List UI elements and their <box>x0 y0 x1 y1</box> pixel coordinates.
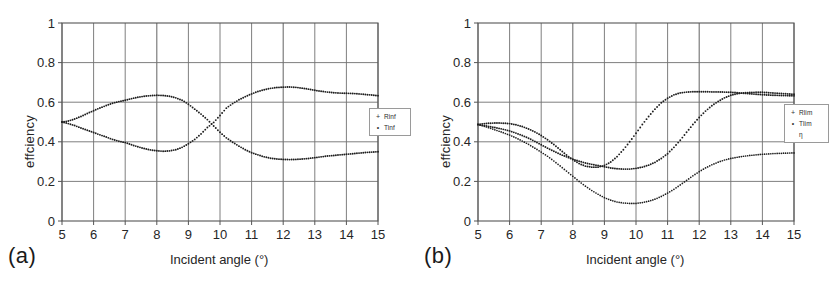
plot-b-ticks <box>474 23 794 225</box>
svg-text:0.2: 0.2 <box>37 174 55 189</box>
plot-b-legend[interactable]: +Rlim•Tlimη <box>784 104 829 143</box>
legend-label: η <box>799 129 803 140</box>
plot-b-tick-labels: 00.20.40.60.8156789101112131415 <box>453 16 801 243</box>
legend-item-Tinf[interactable]: •Tinf <box>372 122 407 133</box>
svg-text:9: 9 <box>601 227 608 242</box>
svg-text:0.6: 0.6 <box>37 95 55 110</box>
legend-marker-icon: • <box>372 122 384 133</box>
plot-a-panel-tag: (a) <box>8 243 36 269</box>
svg-text:1: 1 <box>464 16 471 31</box>
svg-text:0: 0 <box>464 214 471 229</box>
svg-text:15: 15 <box>787 227 801 242</box>
svg-text:12: 12 <box>276 227 290 242</box>
plot-a-legend[interactable]: +Rinf•Tinf <box>369 108 411 136</box>
svg-text:8: 8 <box>569 227 576 242</box>
plot-a-svg: 00.20.40.60.8156789101112131415 <box>0 0 416 286</box>
legend-label: Rlim <box>799 107 812 118</box>
svg-text:6: 6 <box>506 227 513 242</box>
plot-a-tick-labels: 00.20.40.60.8156789101112131415 <box>37 16 385 243</box>
svg-text:0.8: 0.8 <box>37 55 55 70</box>
legend-marker-icon: • <box>787 118 799 129</box>
legend-item-Rlim[interactable]: +Rlim <box>787 107 825 118</box>
svg-text:1: 1 <box>48 16 55 31</box>
svg-text:0.8: 0.8 <box>453 55 471 70</box>
svg-text:12: 12 <box>692 227 706 242</box>
legend-item-Rinf[interactable]: +Rinf <box>372 111 407 122</box>
page-bottom-strip <box>0 274 832 286</box>
svg-text:15: 15 <box>371 227 385 242</box>
svg-text:0.6: 0.6 <box>453 95 471 110</box>
svg-text:10: 10 <box>213 227 227 242</box>
svg-text:14: 14 <box>755 227 769 242</box>
svg-text:5: 5 <box>474 227 481 242</box>
svg-text:8: 8 <box>153 227 160 242</box>
plot-b-panel-tag: (b) <box>424 243 452 269</box>
svg-text:7: 7 <box>538 227 545 242</box>
svg-text:0.4: 0.4 <box>37 134 55 149</box>
svg-text:0.4: 0.4 <box>453 134 471 149</box>
legend-item-η[interactable]: η <box>787 129 825 140</box>
svg-text:6: 6 <box>90 227 97 242</box>
legend-marker-icon: + <box>372 111 384 122</box>
panel-b: 00.20.40.60.8156789101112131415 effcienc… <box>416 0 832 286</box>
plot-a-canvas: 00.20.40.60.8156789101112131415 <box>0 0 416 286</box>
panel-a: 00.20.40.60.8156789101112131415 effcienc… <box>0 0 416 286</box>
svg-text:5: 5 <box>58 227 65 242</box>
plot-a-y-axis-label: effciency <box>22 115 37 168</box>
svg-text:0: 0 <box>48 214 55 229</box>
figure-two-panel-efficiency-plots: 00.20.40.60.8156789101112131415 effcienc… <box>0 0 832 286</box>
legend-marker-icon: + <box>787 107 799 118</box>
plot-a-gridlines <box>62 23 378 221</box>
plot-b-gridlines <box>478 23 794 221</box>
plot-b-x-axis-label: Incident angle (°) <box>586 252 684 267</box>
plot-b-canvas: 00.20.40.60.8156789101112131415 <box>416 0 832 286</box>
plot-a-ticks <box>58 23 378 225</box>
plot-b-svg: 00.20.40.60.8156789101112131415 <box>416 0 832 286</box>
svg-text:13: 13 <box>724 227 738 242</box>
legend-item-Tlim[interactable]: •Tlim <box>787 118 825 129</box>
plot-a-x-axis-label: Incident angle (°) <box>170 252 268 267</box>
svg-text:14: 14 <box>339 227 353 242</box>
svg-text:11: 11 <box>661 227 675 242</box>
legend-label: Tinf <box>384 122 395 133</box>
legend-label: Tlim <box>799 118 812 129</box>
svg-text:0.2: 0.2 <box>453 174 471 189</box>
plot-b-y-axis-label: effciency <box>438 115 453 168</box>
svg-text:13: 13 <box>308 227 322 242</box>
svg-text:10: 10 <box>629 227 643 242</box>
svg-text:7: 7 <box>122 227 129 242</box>
svg-text:9: 9 <box>185 227 192 242</box>
legend-label: Rinf <box>384 111 396 122</box>
svg-text:11: 11 <box>245 227 259 242</box>
